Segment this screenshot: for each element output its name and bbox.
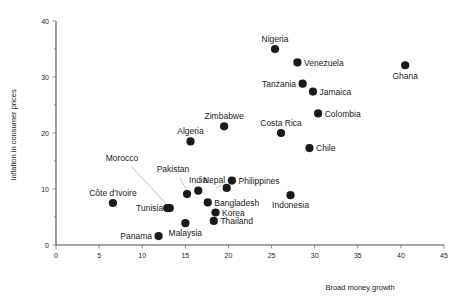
point-label: Morocco — [106, 153, 139, 163]
data-point — [305, 144, 313, 152]
axis-lines — [56, 21, 444, 245]
data-point — [204, 198, 212, 206]
data-point — [183, 190, 191, 198]
data-point — [186, 137, 194, 145]
y-tick-label: 40 — [41, 18, 49, 25]
point-label: Jamaica — [320, 87, 352, 97]
y-tick-label: 20 — [41, 130, 49, 137]
x-tick-label: 45 — [440, 252, 448, 259]
point-label: Tanzania — [262, 79, 296, 89]
data-point — [109, 199, 117, 207]
data-point — [299, 80, 307, 88]
scatter-chart: 051015202530354045010203040 NigeriaVenez… — [0, 0, 466, 301]
data-point — [309, 87, 317, 95]
data-point — [293, 58, 301, 66]
data-point — [211, 208, 219, 216]
y-tick-label: 10 — [41, 186, 49, 193]
data-point — [401, 61, 409, 69]
x-axis-title: Broad money growth — [325, 283, 394, 292]
data-point — [181, 219, 189, 227]
data-point — [166, 204, 174, 212]
data-point — [271, 45, 279, 53]
y-axis-title: Inflation in consumer prices — [9, 89, 18, 181]
x-tick-label: 25 — [268, 252, 276, 259]
data-point — [277, 129, 285, 137]
data-point — [314, 109, 322, 117]
point-label: Côte d'Ivoire — [89, 188, 137, 198]
point-labels: NigeriaVenezuelaGhanaTanzaniaJamaicaColo… — [89, 34, 418, 242]
plot-area: 051015202530354045010203040 NigeriaVenez… — [0, 0, 466, 301]
point-label: Algeria — [177, 126, 204, 136]
point-label: Tunisia — [136, 203, 163, 213]
axes — [56, 21, 444, 245]
point-label: Ghana — [392, 71, 418, 81]
point-label: Indonesia — [272, 200, 309, 210]
data-point — [194, 187, 202, 195]
x-tick-label: 10 — [138, 252, 146, 259]
point-label: Nigeria — [262, 34, 289, 44]
point-label: Zimbabwe — [205, 111, 244, 121]
point-label: Bangladesh — [214, 198, 259, 208]
x-tick-label: 20 — [225, 252, 233, 259]
point-label: Pakistan — [157, 164, 190, 174]
x-tick-label: 0 — [54, 252, 58, 259]
y-tick-label: 30 — [41, 74, 49, 81]
point-label: Thailand — [220, 216, 253, 226]
point-label: Venezuela — [304, 58, 344, 68]
y-tick-label: 0 — [45, 242, 49, 249]
x-tick-label: 30 — [311, 252, 319, 259]
point-label: Malaysia — [169, 228, 203, 238]
data-point — [223, 184, 231, 192]
data-point — [210, 217, 218, 225]
x-tick-label: 40 — [397, 252, 405, 259]
x-tick-label: 15 — [181, 252, 189, 259]
point-label: Chile — [316, 143, 336, 153]
point-label: Costa Rica — [260, 118, 302, 128]
data-point — [228, 177, 236, 185]
x-tick-label: 35 — [354, 252, 362, 259]
point-label: Colombia — [325, 109, 361, 119]
point-label: Panama — [120, 231, 152, 241]
data-point — [155, 232, 163, 240]
point-label: India — [189, 175, 208, 185]
data-point — [220, 122, 228, 130]
point-label: Philippines — [238, 176, 279, 186]
x-tick-label: 5 — [97, 252, 101, 259]
data-point — [286, 191, 294, 199]
leader-line — [180, 177, 186, 190]
